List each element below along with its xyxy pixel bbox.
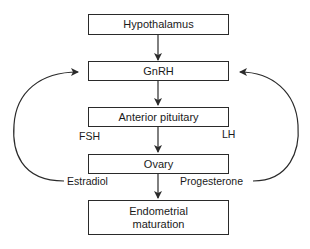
edge-label-progesterone: Progesterone <box>180 175 243 187</box>
feedback-arrow-estradiol <box>14 72 78 181</box>
node-gnrh: GnRH <box>88 61 229 81</box>
node-ovary-label: Ovary <box>144 158 173 171</box>
edge-label-fsh: FSH <box>79 130 100 142</box>
node-endometrial-label-line1: Endometrial <box>129 205 188 218</box>
feedback-arrow-progesterone <box>240 72 298 181</box>
node-endometrial-label-line2: maturation <box>133 218 185 231</box>
edge-label-lh: LH <box>222 128 235 140</box>
node-anterior-pituitary: Anterior pituitary <box>88 107 229 127</box>
node-hypothalamus-label: Hypothalamus <box>123 18 193 31</box>
node-anterior-pituitary-label: Anterior pituitary <box>118 111 198 124</box>
node-ovary: Ovary <box>88 154 229 174</box>
edge-label-estradiol: Estradiol <box>67 175 108 187</box>
node-endometrial-maturation: Endometrial maturation <box>88 200 229 235</box>
node-hypothalamus: Hypothalamus <box>88 14 229 35</box>
node-gnrh-label: GnRH <box>143 65 174 78</box>
